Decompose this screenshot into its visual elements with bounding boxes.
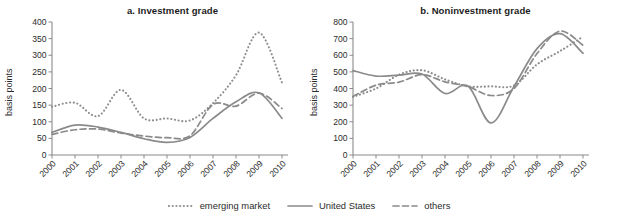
panel-investment-grade: a. Investment grade basis points 0501001… [0, 0, 305, 190]
svg-text:0: 0 [42, 150, 47, 160]
x-tick-label: 2004 [129, 158, 150, 179]
x-tick-label: 2006 [476, 158, 497, 179]
svg-text:400: 400 [32, 17, 47, 27]
x-tick-label: 2008 [221, 158, 242, 179]
svg-text:0: 0 [343, 150, 348, 160]
svg-text:150: 150 [32, 100, 47, 110]
x-tick-label: 2010 [568, 158, 589, 179]
legend-item-label: others [424, 200, 450, 211]
panel-b-plot: 0100200300400500600700800200020012002200… [305, 0, 618, 190]
x-tick-label: 2000 [338, 158, 359, 179]
x-tick-label: 2005 [152, 158, 173, 179]
x-tick-label: 2010 [267, 158, 288, 179]
svg-text:100: 100 [32, 117, 47, 127]
svg-text:400: 400 [333, 84, 348, 94]
series-united-states [353, 34, 583, 123]
svg-text:500: 500 [333, 67, 348, 77]
x-tick-label: 2008 [522, 158, 543, 179]
x-tick-label: 2005 [453, 158, 474, 179]
x-tick-label: 2007 [198, 158, 219, 179]
panel-noninvestment-grade: b. Noninvestment grade basis points 0100… [305, 0, 618, 190]
series-emerging-market [353, 37, 583, 97]
legend-item-label: United States [319, 200, 375, 211]
legend-item-others[interactable]: others [392, 200, 450, 211]
x-tick-label: 2004 [430, 158, 451, 179]
legend-item-label: emerging market [200, 200, 270, 211]
x-tick-label: 2003 [407, 158, 428, 179]
svg-text:100: 100 [333, 133, 348, 143]
x-tick-label: 2009 [244, 158, 265, 179]
x-tick-label: 2002 [384, 158, 405, 179]
x-tick-label: 2002 [83, 158, 104, 179]
svg-text:200: 200 [333, 117, 348, 127]
svg-text:200: 200 [32, 84, 47, 94]
x-tick-label: 2001 [361, 158, 382, 179]
x-tick-label: 2009 [545, 158, 566, 179]
dotted-line-icon [168, 201, 194, 211]
svg-text:700: 700 [333, 34, 348, 44]
legend-item-united-states[interactable]: United States [287, 200, 375, 211]
series-emerging-market [52, 33, 282, 122]
x-tick-label: 2000 [37, 158, 58, 179]
svg-text:300: 300 [32, 50, 47, 60]
figure-container: a. Investment grade basis points 0501001… [0, 0, 618, 221]
series-united-states [52, 92, 282, 142]
svg-text:800: 800 [333, 17, 348, 27]
x-tick-label: 2003 [106, 158, 127, 179]
dashed-line-icon [392, 201, 418, 211]
panels-row: a. Investment grade basis points 0501001… [0, 0, 618, 190]
legend-item-emerging-market[interactable]: emerging market [168, 200, 270, 211]
svg-text:50: 50 [37, 133, 47, 143]
series-others [52, 93, 282, 139]
svg-text:250: 250 [32, 67, 47, 77]
x-tick-label: 2007 [499, 158, 520, 179]
solid-line-icon [287, 201, 313, 211]
x-tick-label: 2006 [175, 158, 196, 179]
x-tick-label: 2001 [60, 158, 81, 179]
svg-text:350: 350 [32, 34, 47, 44]
svg-text:600: 600 [333, 50, 348, 60]
svg-text:300: 300 [333, 100, 348, 110]
panel-a-plot: 0501001502002503003504002000200120022003… [0, 0, 305, 190]
chart-legend: emerging marketUnited Statesothers [0, 190, 618, 221]
